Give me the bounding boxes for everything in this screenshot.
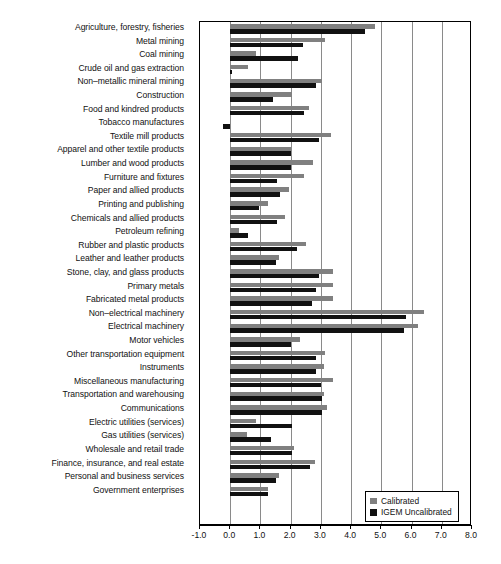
bar-row <box>200 294 470 308</box>
bar-igem-uncalibrated <box>230 437 271 442</box>
bar-igem-uncalibrated <box>230 274 319 279</box>
bar-igem-uncalibrated <box>230 56 298 61</box>
bar-calibrated <box>230 351 325 356</box>
bar-igem-uncalibrated <box>230 356 316 361</box>
x-axis-tick <box>290 525 291 529</box>
bar-igem-uncalibrated <box>230 342 290 347</box>
x-axis-tick-label: 2.0 <box>275 530 305 540</box>
x-axis-tick-label: 7.0 <box>426 530 456 540</box>
x-axis-tick-label: 6.0 <box>396 530 426 540</box>
bar-row <box>200 444 470 458</box>
category-label: Textile mill products <box>0 130 190 144</box>
bar-calibrated <box>230 378 333 383</box>
bar-row <box>200 321 470 335</box>
category-label: Stone, clay, and glass products <box>0 266 190 280</box>
black-square-swatch <box>370 509 377 516</box>
bar-igem-uncalibrated <box>230 383 321 388</box>
category-label: Crude oil and gas extraction <box>0 62 190 76</box>
bar-row <box>200 172 470 186</box>
bar-igem-uncalibrated <box>230 43 303 48</box>
bar-igem-uncalibrated <box>230 465 310 470</box>
bar-igem-uncalibrated <box>230 220 277 225</box>
bar-row <box>200 199 470 213</box>
bar-calibrated <box>230 405 327 410</box>
category-label: Printing and publishing <box>0 198 190 212</box>
category-label: Electrical machinery <box>0 320 190 334</box>
bar-calibrated <box>230 255 278 260</box>
category-label: Personal and business services <box>0 470 190 484</box>
bar-row <box>200 226 470 240</box>
bar-row <box>200 158 470 172</box>
bar-series-container <box>200 22 470 524</box>
category-label: Primary metals <box>0 280 190 294</box>
category-label: Tobacco manufactures <box>0 116 190 130</box>
x-axis-tick <box>441 525 442 529</box>
bar-calibrated <box>230 24 375 29</box>
x-axis-line <box>199 525 471 526</box>
category-label: Construction <box>0 89 190 103</box>
bar-igem-uncalibrated <box>230 328 404 333</box>
bar-igem-uncalibrated <box>230 247 296 252</box>
bar-igem-uncalibrated <box>230 478 275 483</box>
bar-row <box>200 131 470 145</box>
bar-calibrated <box>230 419 256 424</box>
bar-row <box>200 76 470 90</box>
category-label: Coal mining <box>0 48 190 62</box>
category-label: Leather and leather products <box>0 252 190 266</box>
bar-igem-uncalibrated <box>230 233 248 238</box>
bar-row <box>200 213 470 227</box>
x-axis-tick-label: 5.0 <box>365 530 395 540</box>
x-axis-tick <box>380 525 381 529</box>
bar-row <box>200 308 470 322</box>
category-label: Motor vehicles <box>0 334 190 348</box>
bar-calibrated <box>230 79 322 84</box>
x-axis-tick <box>259 525 260 529</box>
bar-row <box>200 403 470 417</box>
legend-item: Calibrated <box>370 495 452 507</box>
bar-calibrated <box>230 201 268 206</box>
category-label: Electric utilities (services) <box>0 416 190 430</box>
category-label: Government enterprises <box>0 484 190 498</box>
bar-igem-uncalibrated <box>230 315 405 320</box>
bar-calibrated <box>230 460 315 465</box>
bar-row <box>200 240 470 254</box>
bar-row <box>200 362 470 376</box>
bar-row <box>200 430 470 444</box>
bar-calibrated <box>230 147 290 152</box>
bar-igem-uncalibrated <box>230 369 316 374</box>
bar-row <box>200 63 470 77</box>
category-label: Lumber and wood products <box>0 157 190 171</box>
bar-row <box>200 471 470 485</box>
category-label: Food and kindred products <box>0 103 190 117</box>
bar-igem-uncalibrated <box>230 451 292 456</box>
bar-row <box>200 144 470 158</box>
bar-row <box>200 335 470 349</box>
bar-row <box>200 104 470 118</box>
gray-square-swatch <box>370 498 377 505</box>
bar-calibrated <box>230 324 417 329</box>
bar-igem-uncalibrated <box>230 179 277 184</box>
bar-igem-uncalibrated <box>230 111 304 116</box>
bar-igem-uncalibrated <box>230 192 280 197</box>
bar-calibrated <box>230 38 325 43</box>
category-label: Wholesale and retail trade <box>0 443 190 457</box>
category-label: Fabricated metal products <box>0 293 190 307</box>
x-axis-tick <box>411 525 412 529</box>
category-label: Other transportation equipment <box>0 348 190 362</box>
bar-calibrated <box>230 473 278 478</box>
bar-row <box>200 253 470 267</box>
bar-row <box>200 376 470 390</box>
bar-calibrated <box>230 392 324 397</box>
bar-igem-uncalibrated <box>230 492 268 497</box>
category-label: Finance, insurance, and real estate <box>0 457 190 471</box>
category-label: Metal mining <box>0 35 190 49</box>
bar-calibrated <box>230 487 268 492</box>
bar-calibrated <box>230 283 333 288</box>
bar-row <box>200 267 470 281</box>
x-axis: -1.00.01.02.03.04.05.06.07.08.0 <box>199 525 471 545</box>
x-axis-tick <box>350 525 351 529</box>
bar-row <box>200 458 470 472</box>
bar-calibrated <box>230 133 331 138</box>
bar-row <box>200 417 470 431</box>
bar-row <box>200 90 470 104</box>
